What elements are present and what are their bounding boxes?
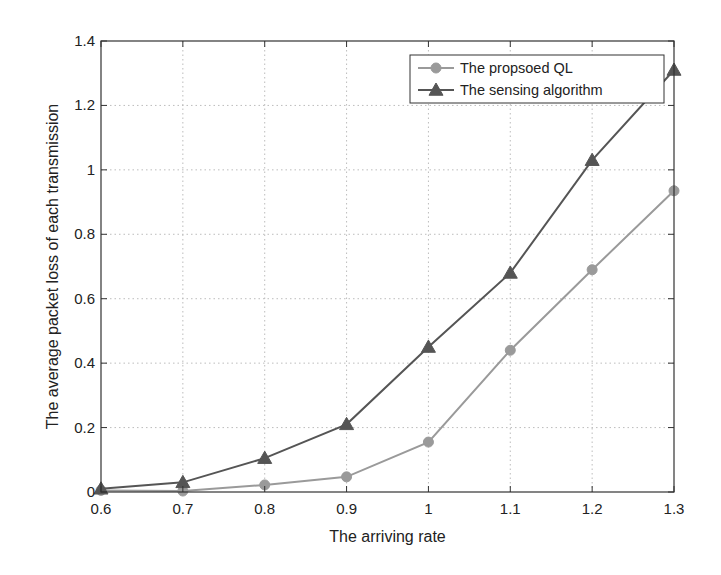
series-line xyxy=(101,70,674,489)
y-tick-label: 0 xyxy=(87,483,95,500)
circle-marker xyxy=(342,472,352,482)
y-tick-label: 0.4 xyxy=(74,354,95,371)
series-sensing-algorithm xyxy=(94,63,681,494)
legend-label: The propsoed QL xyxy=(460,60,573,76)
x-tick-label: 0.7 xyxy=(172,500,193,517)
y-tick-label: 0.8 xyxy=(74,225,95,242)
circle-marker xyxy=(587,265,597,275)
y-tick-labels: 00.20.40.60.811.21.4 xyxy=(74,32,95,500)
triangle-marker xyxy=(258,451,272,463)
y-tick-label: 1 xyxy=(87,161,95,178)
y-axis-label: The average packet loss of each transmis… xyxy=(44,104,61,430)
series-line xyxy=(101,191,674,491)
legend-label: The sensing algorithm xyxy=(460,82,603,98)
y-tick-label: 1.2 xyxy=(74,96,95,113)
circle-marker xyxy=(505,345,515,355)
x-tick-label: 1.2 xyxy=(582,500,603,517)
y-tick-label: 0.6 xyxy=(74,290,95,307)
legend: The propsoed QLThe sensing algorithm xyxy=(410,55,664,103)
x-tick-label: 0.6 xyxy=(91,500,112,517)
series-layer xyxy=(94,63,681,496)
line-chart: 0.60.70.80.911.11.21.3 00.20.40.60.811.2… xyxy=(0,0,721,575)
x-tick-labels: 0.60.70.80.911.11.21.3 xyxy=(91,500,685,517)
x-tick-label: 1 xyxy=(424,500,432,517)
circle-marker xyxy=(423,437,433,447)
y-tick-label: 1.4 xyxy=(74,32,95,49)
y-tick-label: 0.2 xyxy=(74,419,95,436)
x-axis-label: The arriving rate xyxy=(329,528,446,545)
series-proposed-ql xyxy=(96,186,679,496)
x-tick-label: 1.3 xyxy=(664,500,685,517)
x-tick-label: 0.8 xyxy=(254,500,275,517)
x-tick-label: 1.1 xyxy=(500,500,521,517)
circle-marker-icon xyxy=(431,63,441,73)
x-tick-label: 0.9 xyxy=(336,500,357,517)
